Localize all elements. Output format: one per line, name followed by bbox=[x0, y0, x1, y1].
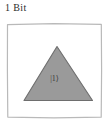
figure-caption: 1 Bit bbox=[5, 1, 27, 14]
figure-panel-canvas bbox=[6, 22, 103, 119]
figure-panel: |1⟩ bbox=[6, 22, 103, 119]
figure-root: 1 Bit |1⟩ bbox=[0, 0, 111, 129]
